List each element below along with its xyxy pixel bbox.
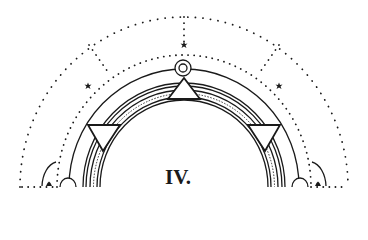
star-top-icon [181,42,188,49]
triangle-top [168,78,200,99]
star-left-icon [85,83,92,90]
left-base-semicircle [60,178,76,187]
top-inner-circle [179,64,187,72]
spoke-right [260,45,279,72]
star-bottom-left-icon [46,182,52,187]
star-right-icon [276,83,283,90]
right-corner-arc [312,162,326,186]
diagram-label: IV. [165,165,191,190]
spoke-left [89,45,108,72]
right-base-semicircle [292,178,308,187]
star-bottom-right-icon [315,182,321,187]
